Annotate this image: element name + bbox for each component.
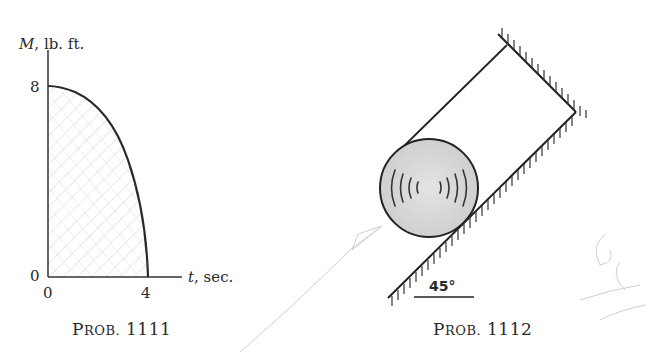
caption-prob-1111: PROB. 1111 [72, 321, 171, 338]
cylinder-incline-diagram [380, 28, 586, 306]
x-tick-4: 4 [141, 286, 151, 301]
y-tick-0: 0 [30, 269, 40, 284]
angle-label: 45° [429, 279, 455, 293]
y-axis-label: M, lb. ft. [19, 37, 84, 52]
y-tick-8: 8 [30, 80, 40, 95]
x-tick-0: 0 [43, 286, 53, 301]
moment-time-graph [48, 50, 182, 277]
figure-canvas [0, 0, 651, 357]
cord [405, 45, 507, 145]
cylinder [380, 139, 478, 237]
upper-wall [498, 28, 586, 118]
caption-prob-1112: PROB. 1112 [433, 321, 532, 338]
x-axis-label: t, sec. [188, 270, 233, 285]
